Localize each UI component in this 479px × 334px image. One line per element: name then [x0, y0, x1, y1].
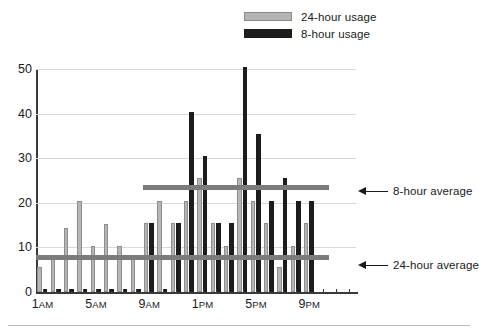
x-axis-tick: [83, 289, 84, 293]
annotation-label-8-hour-average: 8-hour average: [393, 185, 472, 197]
x-axis-tick: [349, 289, 350, 293]
bar-24-hour-usage: [224, 246, 229, 292]
bar-24-hour-usage: [157, 201, 162, 292]
annotation-label-24-hour-average: 24-hour average: [393, 259, 479, 271]
left-arrow-icon: [358, 186, 388, 197]
x-axis-tick: [163, 289, 164, 293]
x-axis-tick: [109, 289, 110, 293]
bar-8-hour-usage: [203, 156, 208, 292]
plot-canvas: [36, 69, 356, 292]
x-axis-tick: [136, 289, 137, 293]
x-axis-tick: [243, 289, 244, 293]
x-axis-tick-label: 5AM: [85, 297, 107, 311]
x-axis-tick: [176, 289, 177, 293]
bar-8-hour-usage: [283, 178, 288, 292]
gridline: [36, 69, 356, 70]
x-axis-tick: [56, 289, 57, 293]
bar-8-hour-usage: [256, 134, 261, 292]
x-axis-tick: [69, 289, 70, 293]
bar-24-hour-usage: [197, 178, 202, 292]
y-axis-tick-label: 50: [6, 62, 32, 76]
x-axis-tick: [149, 289, 150, 293]
x-axis-tick: [203, 289, 204, 293]
y-axis-tick-label: 0: [6, 285, 32, 299]
x-axis-tick: [123, 289, 124, 293]
x-axis-tick: [323, 289, 324, 293]
x-axis-tick: [269, 289, 270, 293]
x-axis-tick: [283, 289, 284, 293]
annotation-24-hour-average: 24-hour average: [358, 259, 479, 271]
y-axis-tick-labels: 01020304050: [4, 69, 32, 293]
bar-24-hour-usage: [291, 246, 296, 292]
footer-divider: [8, 325, 470, 326]
bar-24-hour-usage: [51, 255, 56, 292]
reference-line-24-hour-average: [36, 255, 329, 260]
y-axis-tick-label: 20: [6, 196, 32, 210]
y-axis-tick-label: 40: [6, 107, 32, 121]
left-arrow-icon: [358, 260, 388, 271]
x-axis-tick-label: 9PM: [299, 297, 321, 311]
reference-line-8-hour-average: [143, 185, 330, 190]
x-axis-tick: [189, 289, 190, 293]
gridline: [36, 158, 356, 159]
x-axis-tick-label: 9AM: [139, 297, 161, 311]
bar-24-hour-usage: [184, 201, 189, 292]
bar-24-hour-usage: [131, 255, 136, 292]
bar-24-hour-usage: [117, 246, 122, 292]
annotation-8-hour-average: 8-hour average: [358, 185, 472, 197]
x-axis-tick: [296, 289, 297, 293]
bar-8-hour-usage: [309, 201, 314, 292]
x-axis-tick: [229, 289, 230, 293]
x-axis-tick: [256, 289, 257, 293]
bar-24-hour-usage: [251, 201, 256, 292]
x-axis-tick: [96, 289, 97, 293]
x-axis-tick: [216, 289, 217, 293]
bar-24-hour-usage: [37, 267, 42, 292]
bar-24-hour-usage: [277, 267, 282, 292]
gridline: [36, 203, 356, 204]
bar-24-hour-usage: [77, 201, 82, 292]
gridline: [36, 114, 356, 115]
x-axis-tick: [43, 289, 44, 293]
bar-8-hour-usage: [296, 201, 301, 292]
x-axis-tick-label: 5PM: [245, 297, 267, 311]
y-axis-tick-label: 30: [6, 151, 32, 165]
bar-8-hour-usage: [189, 112, 194, 292]
x-axis-tick-label: 1AM: [32, 297, 54, 311]
bar-24-hour-usage: [91, 246, 96, 292]
bar-24-hour-usage: [237, 178, 242, 292]
x-axis-tick: [336, 289, 337, 293]
x-axis-tick: [309, 289, 310, 293]
bar-8-hour-usage: [269, 201, 274, 292]
x-axis-tick-label: 1PM: [192, 297, 214, 311]
y-axis-tick-label: 10: [6, 240, 32, 254]
